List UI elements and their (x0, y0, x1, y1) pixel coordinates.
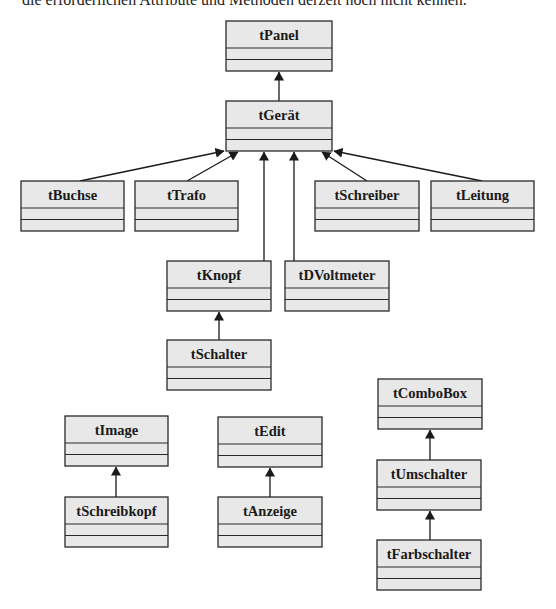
class-name: tFarbschalter (387, 546, 472, 562)
class-diagram: tPanel tGerät tBuchse tTrafo tSchreiber … (0, 0, 556, 609)
class-box-tknopf[interactable]: tKnopf (167, 261, 271, 311)
class-box-tpanel[interactable]: tPanel (226, 21, 332, 71)
class-box-tschalter[interactable]: tSchalter (167, 340, 271, 390)
class-name: tAnzeige (243, 503, 298, 519)
class-name: tSchalter (191, 346, 248, 362)
class-box-tleitung[interactable]: tLeitung (431, 181, 534, 231)
class-box-tgeraet[interactable]: tGerät (226, 101, 332, 151)
edge-tleitung-tgeraet (334, 151, 482, 181)
class-name: tEdit (254, 423, 286, 439)
class-name: tImage (95, 422, 139, 438)
class-name: tSchreiber (335, 187, 401, 203)
class-box-tdvoltmeter[interactable]: tDVoltmeter (285, 261, 389, 311)
edge-tbuchse-tgeraet (80, 151, 224, 181)
class-name: tSchreibkopf (76, 503, 156, 519)
class-name: tLeitung (456, 187, 510, 203)
class-box-tanzeige[interactable]: tAnzeige (218, 497, 322, 547)
class-box-tfarbschalter[interactable]: tFarbschalter (377, 540, 481, 590)
class-box-ttrafo[interactable]: tTrafo (135, 181, 238, 231)
class-name: tGerät (258, 107, 299, 123)
class-box-tbuchse[interactable]: tBuchse (21, 181, 124, 231)
class-name: tTrafo (167, 187, 206, 203)
class-box-tschreibkopf[interactable]: tSchreibkopf (65, 497, 168, 547)
class-name: tUmschalter (391, 466, 468, 482)
class-box-tumschalter[interactable]: tUmschalter (377, 460, 481, 510)
class-box-tcombobox[interactable]: tComboBox (378, 379, 482, 429)
class-box-timage[interactable]: tImage (65, 416, 168, 466)
class-name: tPanel (259, 27, 298, 43)
class-name: tDVoltmeter (299, 267, 376, 283)
class-name: tKnopf (197, 267, 241, 283)
class-box-tschreiber[interactable]: tSchreiber (315, 181, 419, 231)
class-name: tBuchse (48, 187, 98, 203)
edge-ttrafo-tgeraet (187, 152, 238, 181)
class-box-tedit[interactable]: tEdit (218, 417, 322, 467)
class-name: tComboBox (393, 385, 468, 401)
